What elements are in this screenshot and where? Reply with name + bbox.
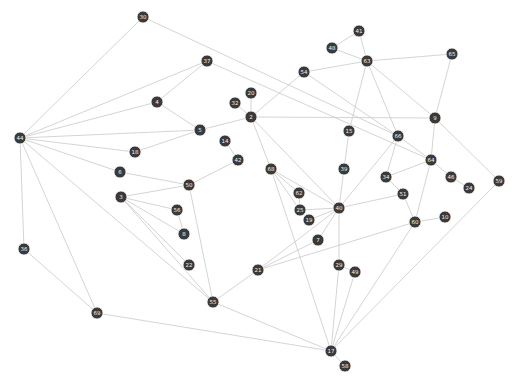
node-7[interactable]: 7 <box>312 234 324 246</box>
edge-63-9 <box>367 61 435 118</box>
node-68[interactable]: 68 <box>265 163 277 175</box>
node-30[interactable]: 30 <box>137 11 149 23</box>
node-42[interactable]: 42 <box>232 154 244 166</box>
node-label: 56 <box>174 207 181 213</box>
node-41[interactable]: 41 <box>353 25 365 37</box>
node-label: 15 <box>346 128 353 134</box>
node-18[interactable]: 18 <box>129 146 141 158</box>
node-label: 44 <box>17 135 24 141</box>
node-4[interactable]: 4 <box>151 96 163 108</box>
node-label: 7 <box>316 237 320 243</box>
node-56[interactable]: 56 <box>171 204 183 216</box>
node-36[interactable]: 36 <box>18 243 30 255</box>
node-label: 50 <box>186 182 193 188</box>
node-21[interactable]: 21 <box>252 264 264 276</box>
node-label: 62 <box>296 190 303 196</box>
node-label: 51 <box>400 191 407 197</box>
node-label: 24 <box>466 185 473 191</box>
edge-69-17 <box>97 313 331 351</box>
network-graph: 3037454418650356822553669144232202544148… <box>0 0 515 383</box>
node-label: 8 <box>182 231 186 237</box>
edge-42-50 <box>189 160 238 185</box>
node-label: 55 <box>210 299 217 305</box>
node-39[interactable]: 39 <box>338 163 350 175</box>
node-60[interactable]: 60 <box>409 216 421 228</box>
node-25[interactable]: 25 <box>294 204 306 216</box>
node-59[interactable]: 59 <box>493 175 505 187</box>
node-label: 59 <box>496 178 503 184</box>
node-5[interactable]: 5 <box>194 124 206 136</box>
edge-44-30 <box>20 17 143 138</box>
node-49[interactable]: 49 <box>349 266 361 278</box>
node-62[interactable]: 62 <box>293 187 305 199</box>
edge-21-40 <box>258 208 339 270</box>
node-54[interactable]: 54 <box>298 66 310 78</box>
edge-2-68 <box>251 117 271 169</box>
node-label: 2 <box>249 114 253 120</box>
node-66[interactable]: 66 <box>392 130 404 142</box>
node-32[interactable]: 32 <box>229 97 241 109</box>
edge-54-63 <box>304 61 367 72</box>
node-label: 69 <box>94 310 101 316</box>
node-label: 54 <box>301 69 308 75</box>
edge-5-2 <box>200 117 251 130</box>
node-22[interactable]: 22 <box>183 259 195 271</box>
node-6[interactable]: 6 <box>114 166 126 178</box>
node-34[interactable]: 34 <box>380 171 392 183</box>
edge-6-50 <box>120 172 189 185</box>
node-label: 48 <box>329 45 336 51</box>
node-label: 66 <box>395 133 402 139</box>
node-48[interactable]: 48 <box>326 42 338 54</box>
node-15[interactable]: 15 <box>343 125 355 137</box>
node-24[interactable]: 24 <box>463 182 475 194</box>
edge-63-66 <box>367 61 398 136</box>
node-40[interactable]: 40 <box>333 202 345 214</box>
node-label: 21 <box>255 267 262 273</box>
node-14[interactable]: 14 <box>219 135 231 147</box>
edge-2-9 <box>251 117 435 118</box>
edge-3-56 <box>121 197 177 210</box>
node-46[interactable]: 46 <box>445 171 457 183</box>
edge-36-69 <box>24 249 97 313</box>
node-63[interactable]: 63 <box>361 55 373 67</box>
node-17[interactable]: 17 <box>325 345 337 357</box>
node-50[interactable]: 50 <box>183 179 195 191</box>
edge-44-69 <box>20 138 97 313</box>
node-label: 5 <box>198 127 202 133</box>
node-9[interactable]: 9 <box>429 112 441 124</box>
node-label: 17 <box>328 348 335 354</box>
node-2[interactable]: 2 <box>245 111 257 123</box>
node-8[interactable]: 8 <box>178 228 190 240</box>
node-label: 39 <box>341 166 348 172</box>
node-label: 10 <box>442 214 449 220</box>
node-label: 60 <box>412 219 419 225</box>
node-label: 6 <box>118 169 122 175</box>
node-label: 18 <box>132 149 139 155</box>
node-29[interactable]: 29 <box>333 259 345 271</box>
edge-63-65 <box>367 54 452 61</box>
node-20[interactable]: 20 <box>245 87 257 99</box>
node-label: 30 <box>140 14 147 20</box>
node-69[interactable]: 69 <box>91 307 103 319</box>
edge-44-6 <box>20 138 120 172</box>
node-label: 4 <box>155 99 159 105</box>
edge-37-4 <box>157 61 207 102</box>
node-51[interactable]: 51 <box>397 188 409 200</box>
node-label: 46 <box>448 174 455 180</box>
node-58[interactable]: 58 <box>339 360 351 372</box>
edge-37-64 <box>207 61 431 160</box>
node-55[interactable]: 55 <box>207 296 219 308</box>
edge-44-55 <box>20 138 213 302</box>
node-label: 34 <box>383 174 390 180</box>
node-label: 32 <box>232 100 239 106</box>
node-44[interactable]: 44 <box>14 132 26 144</box>
node-65[interactable]: 65 <box>446 48 458 60</box>
node-label: 22 <box>186 262 193 268</box>
node-10[interactable]: 10 <box>439 211 451 223</box>
node-label: 29 <box>336 262 343 268</box>
node-label: 20 <box>248 90 255 96</box>
node-37[interactable]: 37 <box>201 55 213 67</box>
node-3[interactable]: 3 <box>115 191 127 203</box>
node-19[interactable]: 19 <box>303 214 315 226</box>
node-64[interactable]: 64 <box>425 154 437 166</box>
